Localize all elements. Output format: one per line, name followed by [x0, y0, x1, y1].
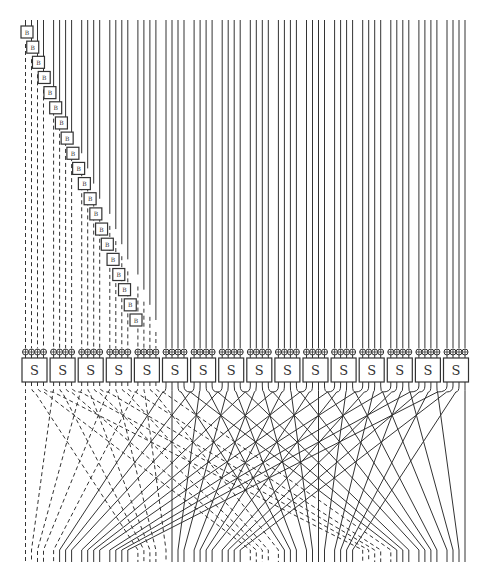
- s-box: S: [387, 358, 412, 382]
- xor-icon: [35, 349, 41, 358]
- b-box: B: [21, 26, 33, 38]
- xor-icon: [97, 349, 103, 358]
- xor-icon: [265, 349, 271, 358]
- xor-icon: [219, 349, 225, 358]
- xor-icon: [275, 349, 281, 358]
- s-box-label: S: [395, 363, 404, 378]
- xor-icon: [378, 349, 384, 358]
- xor-icon: [360, 349, 366, 358]
- xor-icon: [113, 349, 119, 358]
- xor-icon: [422, 349, 428, 358]
- xor-icon: [107, 349, 113, 358]
- xor-icon: [119, 349, 125, 358]
- xor-icon: [338, 349, 344, 358]
- b-box-label: B: [65, 135, 70, 142]
- xor-icon: [29, 349, 35, 358]
- b-box: B: [73, 162, 85, 174]
- b-box: B: [101, 238, 113, 250]
- b-box: B: [38, 71, 50, 83]
- s-box: S: [163, 358, 188, 382]
- s-box: S: [219, 358, 244, 382]
- xor-icon: [304, 349, 310, 358]
- s-box: S: [359, 358, 384, 382]
- b-box: B: [67, 147, 79, 159]
- xor-icon: [456, 349, 462, 358]
- xor-icon: [344, 349, 350, 358]
- s-box: S: [247, 358, 272, 382]
- s-box-label: S: [339, 363, 348, 378]
- permutation-wire: [437, 382, 459, 562]
- xor-icon: [51, 349, 57, 358]
- permutation-wire: [381, 382, 447, 562]
- s-boxes: SSSSSSSSSSSSSSSS: [22, 358, 469, 382]
- s-box-label: S: [86, 363, 95, 378]
- s-box-label: S: [423, 363, 432, 378]
- xor-icon: [231, 349, 237, 358]
- b-box: B: [78, 178, 90, 190]
- s-box: S: [78, 358, 103, 382]
- b-box-label: B: [134, 317, 139, 324]
- xor-icon: [462, 349, 468, 358]
- b-box-label: B: [31, 44, 36, 51]
- s-box-label: S: [58, 363, 67, 378]
- b-box-label: B: [42, 74, 47, 81]
- b-box: B: [90, 208, 102, 220]
- s-box-label: S: [199, 363, 208, 378]
- xor-icon: [141, 349, 147, 358]
- permutation-wire-dashed: [38, 382, 82, 562]
- b-box-label: B: [99, 226, 104, 233]
- b-box-label: B: [53, 104, 58, 111]
- permutation-wire: [347, 382, 431, 562]
- xor-icon: [400, 349, 406, 358]
- xor-icon: [23, 349, 29, 358]
- xor-icon: [247, 349, 253, 358]
- xor-row: [23, 349, 469, 358]
- permutation-wire-dashed: [44, 382, 363, 562]
- xor-icon: [85, 349, 91, 358]
- b-box: B: [44, 87, 56, 99]
- xor-icon: [434, 349, 440, 358]
- s-box: S: [331, 358, 356, 382]
- b-box: B: [130, 314, 142, 326]
- xor-icon: [125, 349, 131, 358]
- b-box-label: B: [48, 89, 53, 96]
- xor-icon: [225, 349, 231, 358]
- s-box: S: [444, 358, 469, 382]
- xor-icon: [153, 349, 159, 358]
- s-box: S: [22, 358, 47, 382]
- input-wires: [26, 20, 466, 348]
- s-box-label: S: [227, 363, 236, 378]
- xor-icon: [350, 349, 356, 358]
- network-diagram: BBBBBBBBBBBBBBBBBBBB SSSSSSSSSSSSSSSS: [0, 0, 490, 582]
- s-box: S: [303, 358, 328, 382]
- xor-icon: [287, 349, 293, 358]
- permutation-wires: [26, 382, 466, 562]
- xor-icon: [259, 349, 265, 358]
- xor-icon: [394, 349, 400, 358]
- s-box: S: [275, 358, 300, 382]
- diagram-canvas: BBBBBBBBBBBBBBBBBBBB SSSSSSSSSSSSSSSS: [0, 0, 490, 582]
- xor-icon: [41, 349, 47, 358]
- xor-icon: [237, 349, 243, 358]
- b-box-label: B: [25, 29, 30, 36]
- xor-icon: [310, 349, 316, 358]
- s-box-label: S: [114, 363, 123, 378]
- s-box-label: S: [142, 363, 151, 378]
- xor-icon: [332, 349, 338, 358]
- xor-icon: [135, 349, 141, 358]
- s-box-label: S: [452, 363, 461, 378]
- xor-icon: [79, 349, 85, 358]
- xor-icon: [169, 349, 175, 358]
- s-box-label: S: [367, 363, 376, 378]
- s-box: S: [134, 358, 159, 382]
- xor-icon: [316, 349, 322, 358]
- xor-icon: [175, 349, 181, 358]
- xor-icon: [203, 349, 209, 358]
- b-box: B: [107, 253, 119, 265]
- b-box-label: B: [122, 286, 127, 293]
- permutation-wire: [184, 382, 228, 562]
- b-box-label: B: [71, 150, 76, 157]
- xor-icon: [444, 349, 450, 358]
- permutation-wire: [262, 382, 306, 562]
- b-box-label: B: [111, 256, 116, 263]
